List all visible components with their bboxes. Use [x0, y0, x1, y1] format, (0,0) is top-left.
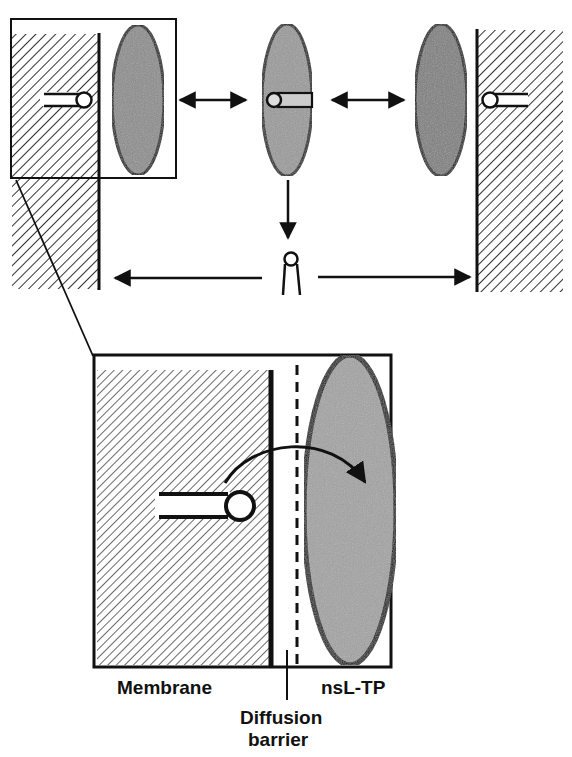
- free-lipid-monomer: [283, 253, 300, 296]
- label-nsltp: nsL-TP: [321, 677, 385, 699]
- nsltp-protein-right: [415, 24, 467, 176]
- label-diffusion-line1: Diffusion: [240, 707, 322, 729]
- label-diffusion-line2: barrier: [248, 729, 308, 751]
- left-membrane: [12, 33, 99, 290]
- inset-panel: [94, 355, 396, 700]
- diagram-canvas: [0, 0, 572, 757]
- nsltp-protein-left: [112, 25, 164, 175]
- nsltp-protein-center: [262, 24, 312, 176]
- label-membrane: Membrane: [117, 677, 212, 699]
- right-membrane: [477, 29, 563, 292]
- nsltp-protein-inset: [304, 355, 396, 665]
